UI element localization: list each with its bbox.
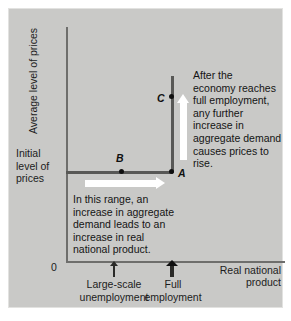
annotation-upper-line1: After the — [193, 69, 291, 82]
y-tick-label-initial-prices: Initial level of prices — [16, 147, 62, 185]
annotation-upper-line4: any further — [193, 107, 291, 120]
y-axis-line — [66, 27, 68, 263]
data-point-b-label: B — [116, 152, 124, 164]
annotation-lower-line4: increase in real — [73, 231, 197, 244]
x-tick-fullemployment-line1: Full — [139, 278, 207, 291]
annotation-upper-line5: increase in — [193, 119, 291, 132]
vertical-price-arrow-head-icon — [177, 94, 189, 103]
x-axis-label-line1: Real national — [195, 264, 281, 276]
annotation-lower-line5: national product. — [73, 243, 197, 256]
annotation-upper-line6: aggregate demand — [193, 132, 291, 145]
x-tick-fullemployment-arrow-icon — [166, 260, 178, 266]
origin-label: 0 — [51, 261, 57, 273]
annotation-lower-line1: In this range, an — [73, 193, 197, 206]
data-point-a-label: A — [178, 167, 186, 179]
annotation-upper-line8: rise. — [193, 157, 291, 170]
y-tick-label-line1: Initial — [16, 147, 62, 160]
figure-panel: Average level of prices Real national pr… — [8, 8, 283, 308]
data-point-a-dot — [169, 169, 174, 174]
annotation-upper-text: After the economy reaches full employmen… — [193, 69, 291, 170]
annotation-upper-line3: full employment, — [193, 94, 291, 107]
x-tick-unemployment-arrow-icon — [110, 261, 118, 266]
vertical-price-arrow-shaft — [180, 102, 187, 160]
y-axis-label: Average level of prices — [27, 16, 39, 146]
x-axis-label-line2: product — [195, 276, 281, 288]
annotation-lower-line2: increase in aggregate — [73, 206, 197, 219]
supply-curve-vertical-segment — [171, 76, 174, 173]
y-tick-label-line3: prices — [16, 172, 62, 185]
y-tick-label-line2: level of — [16, 160, 62, 173]
x-tick-fullemployment-line2: employment — [139, 291, 207, 304]
annotation-lower-line3: demand leads to an — [73, 218, 197, 231]
data-point-c-label: C — [157, 92, 165, 104]
data-point-b-dot — [119, 169, 124, 174]
x-tick-fullemployment-label: Full employment — [139, 278, 207, 303]
horizontal-expansion-arrow-shaft — [85, 180, 157, 187]
annotation-upper-line7: causes prices to — [193, 145, 291, 158]
x-axis-label: Real national product — [195, 264, 281, 288]
annotation-lower-text: In this range, an increase in aggregate … — [73, 193, 197, 256]
annotation-upper-line2: economy reaches — [193, 82, 291, 95]
screenshot-root: Average level of prices Real national pr… — [0, 0, 291, 321]
horizontal-expansion-arrow-head-icon — [156, 177, 165, 189]
data-point-c-dot — [169, 94, 174, 99]
